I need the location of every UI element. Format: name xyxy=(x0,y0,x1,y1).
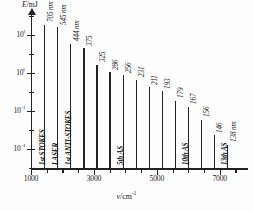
x-axis-minor-tick xyxy=(78,170,79,173)
spectral-line xyxy=(162,91,163,168)
y-axis-major-tick xyxy=(27,35,35,36)
x-axis-minor-tick xyxy=(141,170,142,173)
spectral-line xyxy=(109,72,110,168)
spectral-line-label: 211 xyxy=(152,75,159,85)
x-axis-minor-tick xyxy=(47,170,48,173)
x-axis-minor-tick xyxy=(188,170,189,173)
spectral-line-label: 705 nm xyxy=(48,2,55,22)
spectral-line-label: 545 nm xyxy=(61,4,68,24)
x-axis-tick-label: 3000 xyxy=(87,175,101,183)
spectral-line-label: 325 xyxy=(100,52,107,62)
spectral-order-label: 5th AS xyxy=(118,146,125,165)
spectral-line-label: 444 nm xyxy=(74,21,81,41)
spectral-order-label: 1st ANTI-STOKES xyxy=(66,111,73,165)
spectral-line-label: 156 xyxy=(204,107,211,117)
y-axis-minor-tick xyxy=(29,92,34,93)
y-axis-tick-label: 10⁻⁴ xyxy=(14,145,25,152)
y-axis-major-tick xyxy=(27,73,35,74)
spectral-line xyxy=(214,135,215,168)
spectral-line xyxy=(96,65,97,169)
spectral-line xyxy=(149,87,150,168)
spectral-line xyxy=(83,48,84,168)
x-axis-minor-tick xyxy=(125,170,126,173)
y-axis-tick-label: 10⁰ xyxy=(16,69,25,76)
spectrum-chart: E/mJ v/cm-1 10²10⁰10⁻²10⁻⁴ 1000300050007… xyxy=(0,0,253,211)
spectral-line xyxy=(175,101,176,169)
spectral-line-label: 193 xyxy=(165,78,172,88)
spectral-order-label: LASER xyxy=(53,143,60,165)
x-axis-title: v/cm-1 xyxy=(0,192,253,201)
x-axis-tick-label: 7000 xyxy=(212,175,226,183)
y-axis-minor-tick xyxy=(29,16,34,17)
y-axis-tick-label: 10⁻² xyxy=(14,107,25,114)
spectral-line-label: 167 xyxy=(191,94,198,104)
x-axis-tick-label: 1000 xyxy=(24,175,38,183)
spectral-order-label: 10th AS xyxy=(183,143,190,165)
y-axis-tick-label: 10² xyxy=(17,31,25,38)
x-axis-minor-tick xyxy=(204,170,205,173)
x-axis-minor-tick xyxy=(110,170,111,173)
spectral-line xyxy=(136,80,137,169)
y-axis-major-tick xyxy=(27,111,35,112)
spectral-order-label: 13th AS xyxy=(222,143,229,165)
spectral-line-label: 256 xyxy=(126,62,133,72)
spectral-line-label: 138 nm xyxy=(231,122,238,142)
y-axis-title: E/mJ xyxy=(22,0,38,9)
x-axis-minor-tick xyxy=(173,170,174,173)
spectral-order-label: 1st STOKES xyxy=(40,130,47,166)
y-axis-minor-tick xyxy=(29,54,34,55)
y-axis-arrow-icon xyxy=(28,8,36,15)
y-axis-major-tick xyxy=(27,149,35,150)
spectral-line-label: 231 xyxy=(139,67,146,77)
y-axis-minor-tick xyxy=(29,130,34,131)
spectral-line-label: 179 xyxy=(178,88,185,98)
x-axis-tick-label: 5000 xyxy=(150,175,164,183)
x-axis-minor-tick xyxy=(62,170,63,173)
x-axis-minor-tick xyxy=(235,170,236,173)
spectral-line xyxy=(201,120,202,169)
spectral-line-label: 146 xyxy=(217,122,224,132)
spectral-line-label: 375 xyxy=(87,36,94,46)
x-axis xyxy=(31,168,248,169)
spectral-line-label: 286 xyxy=(113,59,120,69)
